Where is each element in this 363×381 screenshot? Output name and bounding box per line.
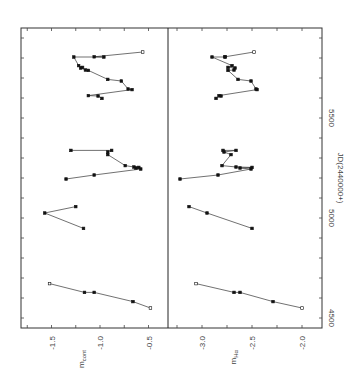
data-point [233,291,236,294]
data-point [301,307,304,310]
data-point [239,167,242,170]
data-point [251,227,254,230]
data-point [106,78,109,81]
data-point [250,80,253,83]
data-point [227,66,230,69]
data-point [101,97,104,100]
data-point [127,88,130,91]
data-point [231,64,234,67]
x-axis-label: JD(2440000+) [336,153,345,204]
data-point [43,212,46,215]
series-line [50,284,151,308]
data-point [84,69,87,72]
data-point [138,166,141,169]
data-point [65,178,68,181]
series-line [74,52,143,98]
data-point [272,300,275,303]
x-tick-label: 4500 [327,309,336,327]
data-point [253,51,256,54]
data-point [179,178,182,181]
data-point [106,151,109,154]
data-point [255,88,258,91]
y-axis-label: mHα [229,349,239,364]
data-point [82,227,85,230]
data-point [87,94,90,97]
data-point [93,56,96,59]
data-point [124,164,127,167]
data-point [224,56,227,59]
data-point [239,291,242,294]
data-point [217,174,220,177]
data-point [93,174,96,177]
x-tick-label: 5500 [327,109,336,127]
data-point [110,149,113,152]
y-tick-label: -1.0 [96,335,105,349]
data-point [141,51,144,54]
axis-labels: 450050005500JD(2440000+)-1.5-1.0-0.5mcon… [48,109,346,368]
y-tick-label: -0.5 [145,335,154,349]
series-line [212,52,257,98]
data-point [106,153,109,156]
data-point [70,149,73,152]
x-tick-label: 5000 [327,209,336,227]
data-series [43,51,303,310]
data-point [227,69,230,72]
data-point [235,149,238,152]
data-point [132,300,135,303]
data-point [131,88,134,91]
data-point [251,166,254,169]
data-point [81,66,84,69]
data-point [103,56,106,59]
data-point [230,153,233,156]
data-point [234,67,237,70]
data-point [93,291,96,294]
series-line [66,150,141,179]
series-line [196,284,302,308]
data-point [73,56,76,59]
y-tick-label: -2.5 [248,335,257,349]
data-point [188,205,191,208]
data-point [77,64,80,67]
data-point [218,94,221,97]
data-point [235,166,238,169]
series-line [45,207,84,229]
data-point [83,291,86,294]
light-curve-figure: 450050005500JD(2440000+)-1.5-1.0-0.5mcon… [0,0,363,381]
data-point [221,164,224,167]
data-point [74,205,77,208]
y-tick-label: -3.0 [198,335,207,349]
series-line [189,207,252,229]
data-point [133,166,136,169]
data-point [120,80,123,83]
data-point [237,78,240,81]
data-point [149,307,152,310]
data-point [195,282,198,285]
y-tick-label: -1.5 [48,335,57,349]
data-point [211,56,214,59]
data-point [97,95,100,98]
data-point [87,69,90,72]
data-point [222,149,225,152]
y-axis-label: mcont [77,350,87,368]
y-tick-label: -2.0 [298,335,307,349]
data-point [206,212,209,215]
series-line [180,150,252,179]
data-point [215,97,218,100]
data-point [48,282,51,285]
